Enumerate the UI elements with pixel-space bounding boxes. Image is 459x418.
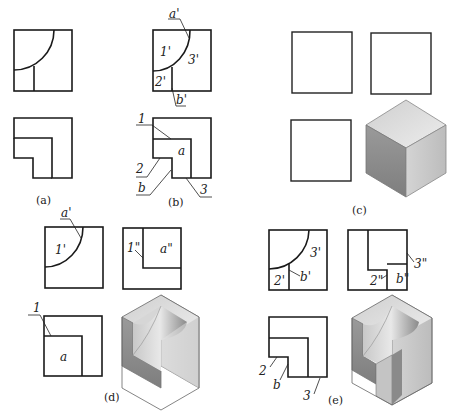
leader-a-prime — [60, 219, 81, 238]
label-2: 2 — [258, 364, 267, 378]
caption-c: (c) — [352, 204, 367, 217]
caption-b: (b) — [168, 196, 184, 209]
label-1-double-prime: 1" — [127, 241, 140, 255]
top-view-outer — [269, 317, 327, 377]
top-view-outer — [14, 118, 72, 178]
arc-edge — [153, 30, 190, 71]
side-view — [371, 33, 431, 94]
cube-with-stepped-cylindrical-cutout — [352, 295, 432, 405]
front-view — [14, 30, 72, 91]
cube-with-cylindrical-cutout — [122, 295, 199, 410]
caption-e: (e) — [328, 394, 343, 407]
panel-b: a' 1' 3' 2' b' 1 a 2 b 3 (b) — [135, 7, 212, 209]
label-2: 2 — [135, 162, 144, 176]
leader-b-prime — [289, 270, 300, 276]
three-view-diagram: (a) a' 1' 3' 2' b' 1 a 2 b 3 (b) — [0, 0, 459, 418]
label-3-prime: 3' — [188, 53, 199, 67]
label-a-prime: a' — [61, 206, 71, 220]
label-3-double-prime: 3" — [414, 257, 427, 271]
caption-a: (a) — [36, 194, 51, 207]
leader-1 — [28, 315, 51, 336]
front-view — [45, 227, 103, 288]
label-1-prime: 1' — [55, 243, 66, 257]
label-a-double-prime: a" — [160, 242, 173, 256]
leader-3 — [186, 178, 212, 197]
label-a: a — [60, 350, 67, 364]
leader-3-double-prime — [407, 253, 414, 262]
label-3: 3 — [200, 183, 208, 197]
top-view — [291, 120, 351, 181]
label-2-prime: 2' — [273, 274, 285, 288]
top-view-inner — [14, 138, 52, 178]
arc-edge — [14, 30, 54, 70]
label-2-prime: 2' — [154, 75, 166, 89]
label-a-prime: a' — [169, 7, 179, 21]
caption-d: (d) — [104, 391, 120, 404]
label-1-prime: 1' — [160, 45, 171, 59]
leader-a-prime — [168, 19, 189, 38]
label-1: 1 — [33, 301, 41, 315]
cube-isometric — [366, 100, 446, 197]
label-b-prime: b' — [300, 270, 311, 284]
label-3-prime: 3' — [310, 246, 321, 260]
leader-2 — [270, 357, 277, 367]
panel-e: 3' 2' b' 3" 2" b" 2 b 3 (e) — [258, 230, 432, 407]
panel-d: a' 1' 1" a" 1 a (d) — [28, 206, 199, 410]
label-a: a — [178, 144, 185, 158]
side-view — [123, 228, 181, 289]
leader-3 — [314, 378, 320, 394]
panel-c: (c) — [291, 32, 446, 217]
top-view — [44, 316, 102, 376]
panel-a: (a) — [14, 30, 72, 207]
label-b: b — [273, 378, 281, 392]
label-b-double-prime: b" — [396, 272, 409, 286]
leader-b — [280, 364, 288, 380]
label-b-prime: b' — [176, 93, 187, 107]
label-1: 1 — [138, 112, 146, 126]
label-2-double-prime: 2" — [369, 274, 383, 288]
label-b: b — [138, 181, 146, 195]
label-3: 3 — [303, 389, 311, 403]
front-view — [292, 32, 352, 93]
